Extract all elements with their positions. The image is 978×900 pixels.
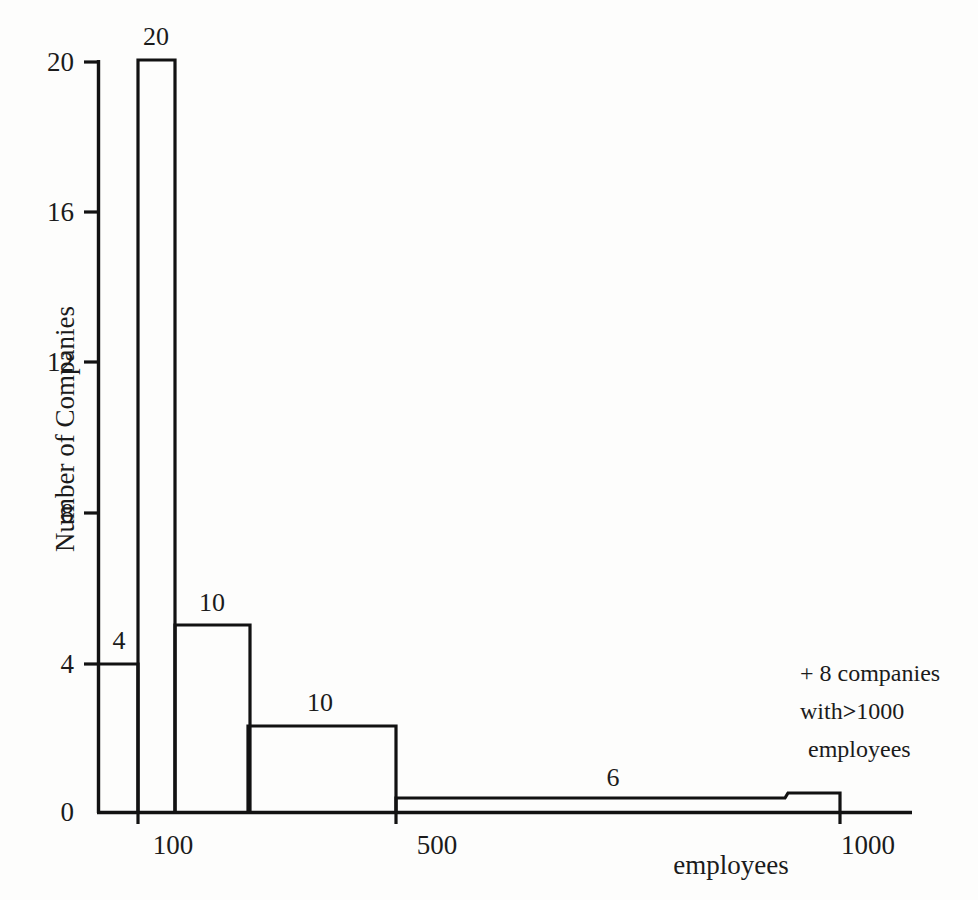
note-line-3: employees: [800, 731, 978, 769]
y-tick-label-16: 16: [22, 199, 74, 226]
note-line-1: + 8 companies: [800, 655, 978, 693]
x-tick-label-500: 500: [417, 832, 458, 859]
note-line-2-prefix: with: [800, 698, 843, 724]
bar-outline-4: [248, 726, 396, 812]
bar-outline-1: [98, 664, 138, 812]
bar-value-label-3: 10: [199, 590, 225, 616]
y-tick-label-20: 20: [22, 49, 74, 76]
bar-value-label-4: 10: [307, 690, 333, 716]
y-axis-ticks: [84, 62, 98, 664]
y-tick-label-0: 0: [22, 799, 74, 826]
note-line-2: with>1000: [800, 693, 978, 731]
histogram-chart: 0 4 8 12 16 20 100 500 1000 4 20 10 10 6…: [0, 0, 978, 900]
bar-value-label-2: 20: [143, 24, 169, 50]
greater-than-icon: >: [843, 698, 857, 724]
over-1000-companies-note: + 8 companies with>1000 employees: [800, 655, 978, 769]
y-tick-label-4: 4: [22, 651, 74, 678]
note-line-2-value: 1000: [856, 698, 904, 724]
bar-value-label-5: 6: [607, 765, 620, 791]
bar-outline-3: [175, 625, 250, 812]
y-axis-title: Number of Companies: [52, 306, 79, 552]
bar-outline-2: [138, 60, 175, 812]
bar-outline-5: [396, 793, 840, 812]
bar-value-label-1: 4: [113, 628, 126, 654]
x-tick-label-1000: 1000: [841, 832, 895, 859]
x-tick-label-100: 100: [153, 832, 194, 859]
histogram-bars: [98, 60, 840, 812]
x-axis-title: employees: [673, 852, 788, 879]
